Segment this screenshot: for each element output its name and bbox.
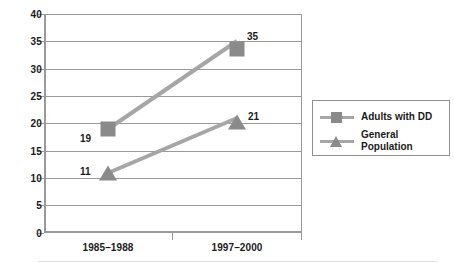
- data-label-general-1985-1988: 11: [80, 166, 91, 177]
- y-tick-label-0: 0: [12, 228, 42, 239]
- y-tick-label-35: 35: [12, 36, 42, 47]
- data-label-general-1997-2000: 21: [248, 111, 259, 122]
- y-tick-label-25: 25: [12, 91, 42, 102]
- gridline-20: [44, 123, 302, 124]
- y-tick-label-10: 10: [12, 173, 42, 184]
- data-point-adults-with-dd-1985-1988: [101, 122, 116, 137]
- x-axis-tick-divider: [172, 233, 173, 240]
- x-axis-label-1997-2000: 1997–2000: [173, 242, 301, 253]
- data-point-general-population-1997-2000: [228, 115, 246, 130]
- legend-label-general-population: GeneralPopulation: [361, 129, 413, 153]
- plot-area: [44, 14, 302, 233]
- chart-legend: Adults with DD GeneralPopulation: [312, 100, 450, 156]
- y-tick-label-20: 20: [12, 118, 42, 129]
- y-tick-label-5: 5: [12, 200, 42, 211]
- gridline-5: [44, 205, 302, 206]
- x-axis-tick-right: [301, 233, 302, 240]
- legend-label-adults-with-dd: Adults with DD: [361, 111, 432, 123]
- y-tick-label-15: 15: [12, 146, 42, 157]
- gridline-0: [44, 232, 302, 233]
- legend-item-general-population: GeneralPopulation: [313, 129, 413, 153]
- x-axis-label-1985-1988: 1985–1988: [44, 242, 172, 253]
- data-point-general-population-1985-1988: [99, 166, 117, 181]
- data-point-adults-with-dd-1997-2000: [230, 42, 245, 57]
- figure-bottom-rule: [38, 261, 438, 262]
- legend-label-general-population-line1: General: [361, 129, 398, 140]
- legend-square-marker-icon: [320, 109, 354, 125]
- gridline-25: [44, 96, 302, 97]
- gridline-10: [44, 178, 302, 179]
- gridline-40: [44, 14, 302, 15]
- y-tick-label-30: 30: [12, 64, 42, 75]
- legend-triangle-marker-icon: [320, 133, 354, 149]
- chart-figure: 0 5 10 15 20 25 30 35 40 19 35 11 21 198…: [0, 0, 454, 263]
- gridline-35: [44, 41, 302, 42]
- gridline-15: [44, 151, 302, 152]
- data-label-adults-1985-1988: 19: [80, 133, 91, 144]
- y-tick-label-40: 40: [12, 9, 42, 20]
- data-label-adults-1997-2000: 35: [247, 31, 258, 42]
- gridline-30: [44, 69, 302, 70]
- legend-label-general-population-line2: Population: [361, 141, 413, 152]
- legend-item-adults-with-dd: Adults with DD: [313, 109, 432, 125]
